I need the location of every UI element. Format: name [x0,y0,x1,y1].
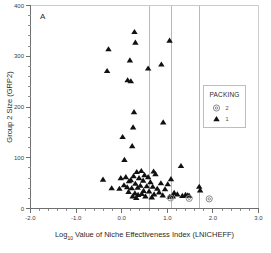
y-tick-label-3: 300 [14,53,25,59]
scatter-plot-figure: -2.0-1.00.01.02.03.00100200300400Group 2… [0,0,271,253]
data-point-triangle [147,179,153,184]
data-point-triangle [104,68,110,73]
data-point-triangle [129,185,135,190]
data-point-triangle [132,40,138,45]
data-point-triangle [149,184,155,189]
legend-label-1: 1 [226,116,229,122]
data-point-circle [206,196,212,202]
data-point-triangle [158,180,164,185]
x-tick-label-5: 3.0 [254,215,263,221]
data-point-triangle [129,143,135,148]
data-point-circle-inner [208,198,210,200]
data-point-triangle [121,157,127,162]
y-tick-label-1: 100 [14,155,25,161]
x-tick-label-2: 0.0 [118,215,127,221]
data-point-triangle [160,119,166,124]
data-point-triangle [196,184,202,189]
data-point-triangle [178,163,184,168]
y-axis-title: Group 2 Size (GRP2) [5,71,14,143]
panel-label: A [40,12,46,21]
data-point-triangle [100,177,106,182]
data-point-triangle [119,134,125,139]
data-point-triangle [138,168,144,173]
y-tick-label-2: 200 [14,104,25,110]
data-point-triangle [127,57,133,62]
data-point-triangle [145,65,151,70]
data-point-triangle [136,175,142,180]
data-point-triangle [123,174,129,179]
data-point-triangle [118,175,124,180]
y-tick-label-4: 400 [14,3,25,9]
legend-title: PACKING [209,91,239,98]
x-tick-label-4: 2.0 [209,215,218,221]
y-tick-label-0: 0 [21,206,25,212]
data-point-triangle [168,176,174,181]
data-point-triangle [162,186,168,191]
data-point-triangle [146,188,152,193]
plot-canvas: -2.0-1.00.01.02.03.00100200300400Group 2… [0,0,271,253]
data-point-triangle [105,46,111,51]
data-point-circle-inner [188,197,190,199]
data-point-triangle [165,181,171,186]
x-tick-label-1: -1.0 [71,215,82,221]
data-point-triangle [158,61,164,66]
x-tick-label-3: 1.0 [163,215,172,221]
data-point-triangle [134,169,140,174]
data-point-triangle [108,185,114,190]
legend-label-2: 2 [226,105,229,111]
x-tick-label-0: -2.0 [25,215,36,221]
data-point-triangle [131,29,137,34]
data-point-triangle [131,109,137,114]
data-point-triangle [130,124,136,129]
x-axis-title: Log10 Value of Niche Effectiveness Index… [55,230,235,241]
